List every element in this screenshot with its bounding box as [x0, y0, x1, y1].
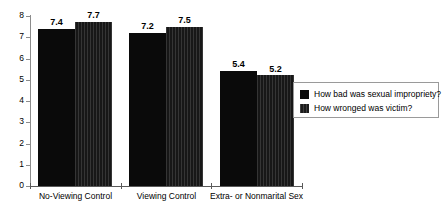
y-tick-mark — [26, 59, 31, 60]
y-tick-label: 3 — [0, 117, 24, 126]
y-tick-label: 1 — [0, 160, 24, 169]
bar-series-0-category-0 — [38, 29, 75, 186]
bar-value-label-series-1-category-0: 7.7 — [71, 10, 116, 20]
chart-figure: 012345678 7.47.77.27.55.45.2 No-Viewing … — [0, 0, 447, 218]
bar-series-1-category-1 — [166, 27, 203, 186]
x-tick-mark — [121, 183, 122, 189]
x-axis-line — [30, 186, 302, 187]
bar-series-0-category-2 — [220, 71, 257, 186]
y-tick-label: 4 — [0, 96, 24, 105]
y-tick-mark — [26, 80, 31, 81]
legend-label-series-0: How bad was sexual impropriety? — [314, 89, 441, 99]
legend-item-1: How wronged was victim? — [300, 102, 412, 114]
bar-series-1-category-0 — [75, 22, 112, 186]
x-tick-mark — [211, 183, 212, 189]
y-tick-mark — [26, 165, 31, 166]
y-tick-mark — [26, 37, 31, 38]
y-tick-label: 8 — [0, 11, 24, 20]
legend-label-series-1: How wronged was victim? — [314, 103, 412, 113]
y-tick-label: 6 — [0, 54, 24, 63]
y-tick-label: 7 — [0, 32, 24, 41]
chart-legend: How bad was sexual impropriety? How wron… — [293, 82, 439, 118]
y-tick-mark — [26, 16, 31, 17]
legend-swatch-icon-series-1 — [300, 104, 309, 113]
legend-item-0: How bad was sexual impropriety? — [300, 88, 441, 100]
bar-value-label-series-1-category-1: 7.5 — [162, 15, 207, 25]
y-tick-label: 5 — [0, 75, 24, 84]
x-tick-mark — [302, 183, 303, 189]
bar-series-0-category-1 — [129, 33, 166, 186]
bar-value-label-series-1-category-2: 5.2 — [253, 64, 298, 74]
y-tick-label: 2 — [0, 139, 24, 148]
y-tick-mark — [26, 101, 31, 102]
legend-swatch-icon-series-0 — [300, 90, 309, 99]
y-tick-mark — [26, 144, 31, 145]
x-tick-mark — [30, 183, 31, 189]
x-category-label-2: Extra- or Nonmarital Sex — [201, 191, 312, 202]
y-tick-mark — [26, 122, 31, 123]
y-tick-label: 0 — [0, 181, 24, 190]
bar-series-1-category-2 — [257, 75, 294, 186]
